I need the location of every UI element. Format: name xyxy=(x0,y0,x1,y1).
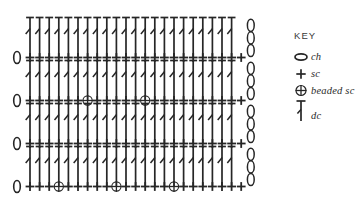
dc-stitch xyxy=(55,104,63,144)
dc-stitch xyxy=(35,104,43,144)
dc-stitch xyxy=(218,61,226,101)
ch-oval-icon xyxy=(294,51,311,63)
ch-oval xyxy=(247,118,254,130)
dc-stitch xyxy=(83,18,91,58)
dc-stitch xyxy=(45,61,53,101)
dc-stitch xyxy=(141,147,149,187)
dc-stitch xyxy=(141,18,149,58)
dc-stitch xyxy=(179,61,187,101)
dc-stitch xyxy=(218,104,226,144)
key-title: KEY xyxy=(294,30,354,41)
dc-bar-icon xyxy=(294,99,311,123)
dc-stitch xyxy=(35,147,43,187)
dc-stitch xyxy=(160,18,168,58)
sc-stitch xyxy=(237,182,246,191)
dc-stitch xyxy=(64,147,72,187)
dc-stitch xyxy=(131,104,139,144)
dc-stitch xyxy=(45,18,53,58)
key-label-dc: dc xyxy=(311,110,321,121)
turning-chain-5 xyxy=(14,95,21,107)
dc-stitch xyxy=(151,18,159,58)
dc-stitch xyxy=(55,18,63,58)
dc-stitch xyxy=(55,61,63,101)
dc-stitch xyxy=(112,61,120,101)
dc-stitch xyxy=(122,104,130,144)
beaded-sc-circled-plus-icon xyxy=(294,84,311,97)
ch-oval xyxy=(247,173,254,185)
dc-stitch xyxy=(227,61,235,101)
dc-stitch xyxy=(227,18,235,58)
edge-chain-stack xyxy=(247,19,254,56)
dc-stitch xyxy=(189,147,197,187)
dc-stitch xyxy=(189,104,197,144)
dc-stitch xyxy=(131,147,139,187)
dc-stitch xyxy=(227,104,235,144)
dc-stitch xyxy=(189,18,197,58)
dc-stitch xyxy=(131,18,139,58)
ch-oval xyxy=(247,32,254,44)
dc-stitch xyxy=(208,147,216,187)
dc-stitch xyxy=(199,18,207,58)
dc-stitch xyxy=(208,18,216,58)
dc-stitch xyxy=(218,18,226,58)
dc-stitch xyxy=(26,147,34,187)
dc-stitch xyxy=(160,61,168,101)
dc-stitch xyxy=(112,18,120,58)
dc-stitch xyxy=(170,18,178,58)
dc-stitch xyxy=(208,104,216,144)
ch-oval xyxy=(247,19,254,31)
key-entry-ch: ch xyxy=(294,48,354,65)
ch-oval xyxy=(247,161,254,173)
sc-stitch xyxy=(237,139,246,148)
dc-stitch xyxy=(93,104,101,144)
dc-stitch xyxy=(179,147,187,187)
dc-stitch xyxy=(103,147,111,187)
dc-stitch xyxy=(35,61,43,101)
dc-stitch xyxy=(93,147,101,187)
dc-stitch xyxy=(179,104,187,144)
stitch-chart xyxy=(0,0,266,198)
edge-chain-stack xyxy=(247,62,254,99)
dc-stitch xyxy=(199,61,207,101)
dc-stitch xyxy=(64,61,72,101)
dc-stitch xyxy=(103,18,111,58)
stitch-chart-svg xyxy=(0,0,266,198)
ch-oval xyxy=(247,105,254,117)
key-label-ch: ch xyxy=(311,51,321,62)
dc-stitch xyxy=(122,147,130,187)
sc-stitch xyxy=(237,53,246,62)
dc-stitch xyxy=(26,18,34,58)
key-entry-dc: dc xyxy=(294,99,354,123)
ch-oval xyxy=(247,87,254,99)
dc-stitch xyxy=(218,147,226,187)
dc-stitch xyxy=(199,147,207,187)
dc-stitch xyxy=(170,147,178,187)
dc-stitch xyxy=(103,61,111,101)
dc-stitch xyxy=(179,18,187,58)
dc-stitch xyxy=(74,147,82,187)
ch-oval xyxy=(247,44,254,56)
dc-stitch xyxy=(112,147,120,187)
dc-stitch xyxy=(160,104,168,144)
dc-stitch xyxy=(26,61,34,101)
dc-stitch xyxy=(151,147,159,187)
dc-stitch xyxy=(64,104,72,144)
dc-stitch xyxy=(227,147,235,187)
dc-stitch xyxy=(170,104,178,144)
dc-stitch xyxy=(55,147,63,187)
key-entry-sc: sc xyxy=(294,65,354,82)
dc-stitch xyxy=(170,61,178,101)
dc-stitch xyxy=(45,147,53,187)
dc-stitch xyxy=(64,18,72,58)
ch-oval xyxy=(247,148,254,160)
dc-stitch xyxy=(160,147,168,187)
dc-stitch xyxy=(199,104,207,144)
dc-stitch xyxy=(131,61,139,101)
key-entry-beaded-sc: beaded sc xyxy=(294,82,354,99)
dc-stitch xyxy=(151,104,159,144)
dc-stitch xyxy=(93,18,101,58)
key-label-sc: sc xyxy=(311,68,320,79)
dc-stitch xyxy=(74,104,82,144)
dc-stitch xyxy=(122,61,130,101)
dc-stitch xyxy=(141,104,149,144)
